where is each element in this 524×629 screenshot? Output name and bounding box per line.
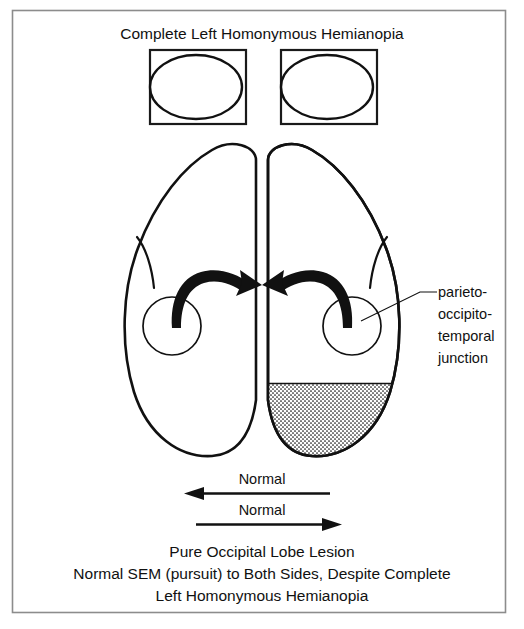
figure-title: Complete Left Homonymous Hemianopia bbox=[120, 25, 404, 42]
visual-field-box-left bbox=[148, 48, 246, 128]
figure-container: Complete Left Homonymous Hemianopia bbox=[0, 0, 524, 629]
visual-field-ellipse-left bbox=[150, 55, 242, 119]
callout-line-4: junction bbox=[437, 350, 488, 366]
pursuit-normal-label-right: Normal bbox=[239, 502, 286, 518]
caption-line-3: Left Homonymous Hemianopia bbox=[156, 587, 369, 604]
visual-field-ellipse-right bbox=[281, 55, 373, 119]
caption-line-2: Normal SEM (pursuit) to Both Sides, Desp… bbox=[73, 565, 450, 582]
figure-frame bbox=[13, 11, 506, 613]
neuro-diagram-figure: Complete Left Homonymous Hemianopia bbox=[0, 0, 524, 629]
pursuit-normal-label-left: Normal bbox=[239, 471, 286, 487]
callout-line-1: parieto- bbox=[438, 284, 487, 300]
callout-line-3: temporal bbox=[438, 328, 494, 344]
visual-field-box-right bbox=[279, 48, 377, 128]
callout-line-2: occipito- bbox=[438, 306, 492, 322]
caption-line-1: Pure Occipital Lobe Lesion bbox=[169, 543, 354, 560]
